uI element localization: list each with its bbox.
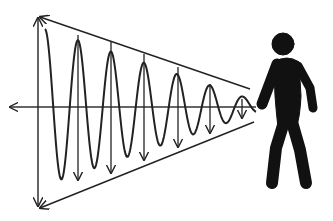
person-head (272, 33, 294, 55)
damped-wave-diagram (0, 0, 333, 221)
